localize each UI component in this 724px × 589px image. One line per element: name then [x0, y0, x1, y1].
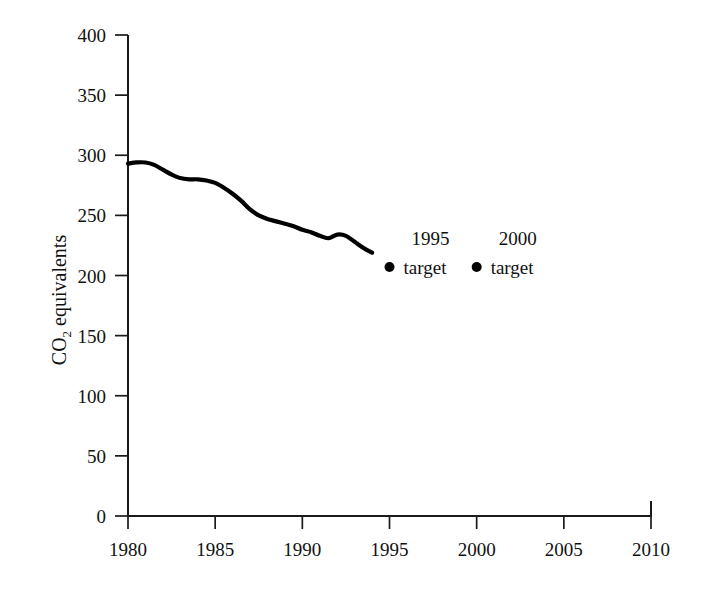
y-axis-title-main: CO: [48, 337, 70, 365]
1995-target-label-target: target: [404, 257, 448, 278]
y-axis-title-tail: equivalents: [48, 235, 71, 331]
1995-target-label-year: 1995: [412, 228, 450, 249]
y-tick-label: 150: [78, 326, 107, 347]
y-tick-label: 300: [78, 145, 107, 166]
x-tick-label: 1980: [109, 539, 147, 560]
y-tick-label: 100: [78, 386, 107, 407]
2000-target-label-target: target: [491, 257, 535, 278]
y-tick-label: 400: [78, 25, 107, 46]
y-tick-label: 0: [97, 506, 107, 527]
x-tick-label: 1985: [196, 539, 234, 560]
1995-target-marker: [385, 262, 395, 272]
y-tick-label: 250: [78, 205, 107, 226]
x-tick-label: 2005: [545, 539, 583, 560]
chart-background: [0, 0, 724, 589]
2000-target-label-year: 2000: [499, 228, 537, 249]
x-tick-label: 1995: [371, 539, 409, 560]
y-tick-label: 50: [87, 446, 106, 467]
2000-target-marker: [472, 262, 482, 272]
x-tick-label: 1990: [283, 539, 321, 560]
y-tick-label: 200: [78, 266, 107, 287]
x-tick-label: 2000: [458, 539, 496, 560]
x-tick-label: 2010: [632, 539, 670, 560]
chart-container: 050100150200250300350400 198019851990199…: [0, 0, 724, 589]
y-tick-label: 350: [78, 85, 107, 106]
co2-equivalents-line-chart: 050100150200250300350400 198019851990199…: [0, 0, 724, 589]
